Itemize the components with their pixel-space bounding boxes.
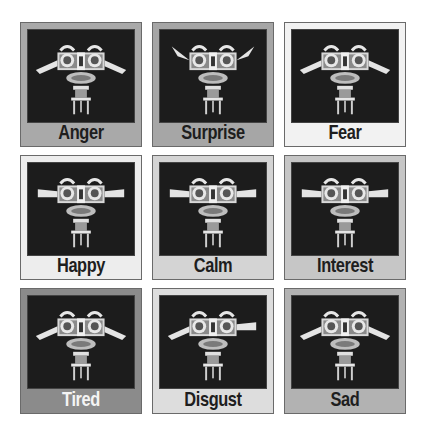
right-ear-icon <box>237 322 257 330</box>
robot-face-icon <box>292 30 398 122</box>
expression-panel-surprise: Surprise <box>152 22 274 147</box>
right-ear-icon <box>237 189 257 197</box>
expression-panel-fear: Fear <box>284 22 406 147</box>
left-ear-icon <box>36 60 58 74</box>
left-ear-icon <box>36 326 58 340</box>
robot-face-icon <box>28 296 134 388</box>
expression-panel-calm: Calm <box>152 155 274 280</box>
robot-photo <box>159 29 267 123</box>
robot-photo <box>291 162 399 256</box>
robot-face-icon <box>28 163 134 255</box>
expression-label: Surprise <box>166 120 260 144</box>
robot-face-icon <box>292 296 398 388</box>
expression-label: Interest <box>298 253 392 277</box>
expression-label: Fear <box>298 120 392 144</box>
expression-label: Anger <box>34 120 128 144</box>
expression-panel-anger: Anger <box>20 22 142 147</box>
right-ear-icon <box>237 47 255 61</box>
robot-photo <box>291 295 399 389</box>
expression-panel-disgust: Disgust <box>152 288 274 414</box>
robot-face-icon <box>292 163 398 255</box>
expression-grid: Anger <box>20 22 408 414</box>
expression-panel-interest: Interest <box>284 155 406 280</box>
robot-face-icon <box>160 163 266 255</box>
left-ear-icon <box>302 189 322 197</box>
robot-photo <box>159 295 267 389</box>
left-ear-icon <box>168 326 190 340</box>
expression-label: Disgust <box>166 387 260 411</box>
robot-face-icon <box>160 30 266 122</box>
expression-panel-tired: Tired <box>20 288 142 414</box>
expression-panel-sad: Sad <box>284 288 406 414</box>
expression-label: Calm <box>166 253 260 277</box>
robot-face-icon <box>28 30 134 122</box>
left-ear-icon <box>170 189 190 197</box>
expression-panel-happy: Happy <box>20 155 142 280</box>
right-ear-icon <box>105 326 127 340</box>
robot-photo <box>27 162 135 256</box>
right-ear-icon <box>369 326 391 340</box>
robot-photo <box>159 162 267 256</box>
expression-label: Happy <box>34 253 128 277</box>
expression-label: Sad <box>298 387 392 411</box>
robot-photo <box>27 29 135 123</box>
right-ear-icon <box>105 60 127 74</box>
expression-label: Tired <box>34 387 128 411</box>
left-ear-icon <box>38 189 58 197</box>
right-ear-icon <box>369 60 391 74</box>
right-ear-icon <box>105 189 125 197</box>
left-ear-icon <box>172 47 190 61</box>
robot-face-icon <box>160 296 266 388</box>
right-ear-icon <box>369 189 389 197</box>
robot-photo <box>291 29 399 123</box>
left-ear-icon <box>300 60 322 74</box>
robot-photo <box>27 295 135 389</box>
left-ear-icon <box>300 326 322 340</box>
